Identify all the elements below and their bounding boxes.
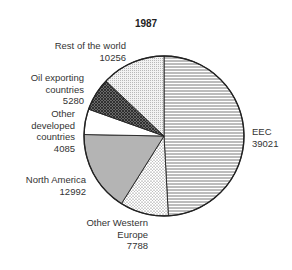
label-value: 4085 (31, 143, 75, 155)
label-eec: EEC 39021 (252, 126, 278, 149)
label-text: Oil exporting (31, 72, 84, 84)
label-text: countries (31, 131, 75, 143)
label-text: Europe (86, 229, 148, 241)
label-text: Other (31, 108, 75, 120)
pie-slices (84, 56, 244, 216)
label-value: 5280 (31, 95, 84, 107)
label-value: 10256 (55, 52, 126, 64)
label-text: Other Western (86, 217, 148, 229)
label-text: North America (26, 174, 86, 186)
chart-title: 1987 (0, 18, 292, 29)
label-other-western-europe: Other Western Europe 7788 (86, 217, 148, 252)
label-oil-exporting: Oil exporting countries 5280 (31, 72, 84, 107)
label-value: 12992 (26, 186, 86, 198)
label-text: EEC (252, 126, 278, 138)
label-other-developed: Other developed countries 4085 (31, 108, 75, 154)
label-value: 39021 (252, 138, 278, 150)
label-text: Rest of the world (55, 40, 126, 52)
label-value: 7788 (86, 240, 148, 252)
label-text: countries (31, 84, 84, 96)
label-text: developed (31, 120, 75, 132)
label-north-america: North America 12992 (26, 174, 86, 197)
pie-slice-eec (164, 56, 244, 216)
label-rest-of-world: Rest of the world 10256 (55, 40, 126, 63)
